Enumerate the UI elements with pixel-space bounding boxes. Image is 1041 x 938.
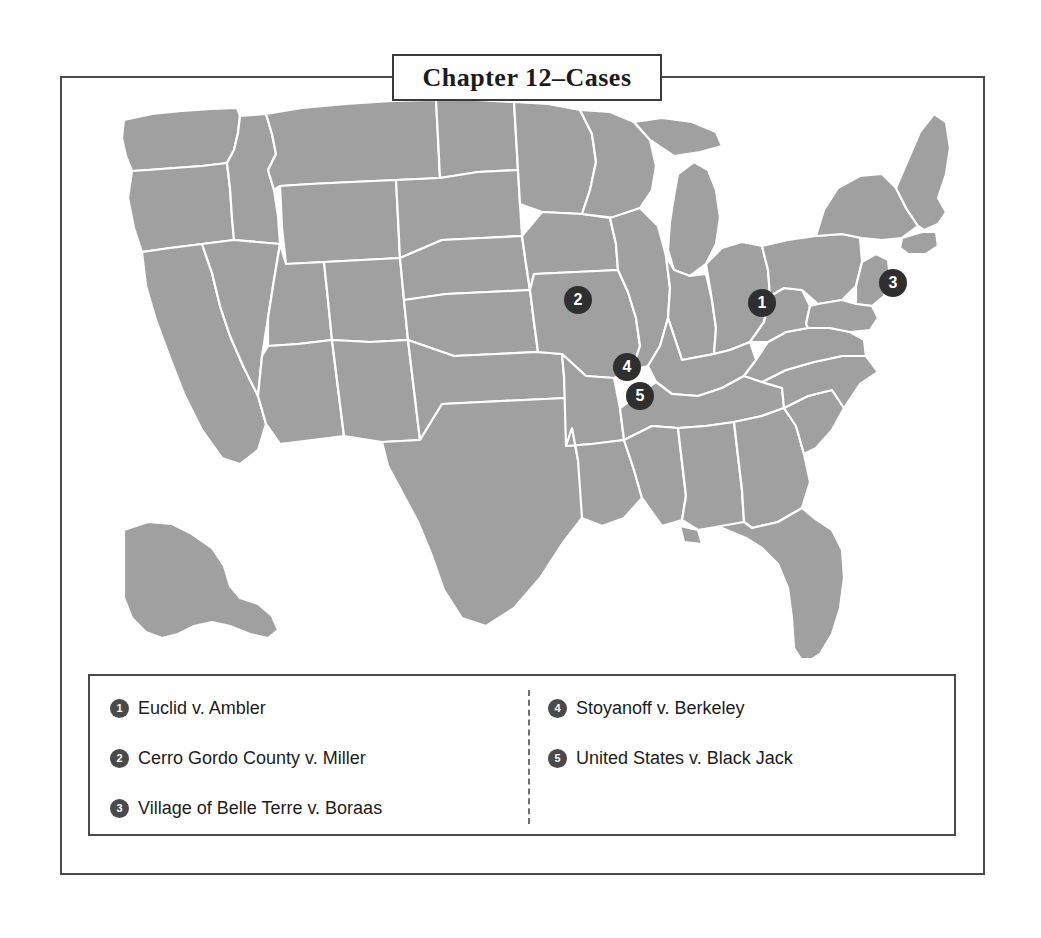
state-arizona: [258, 340, 344, 444]
legend-column-left: 1 Euclid v. Ambler 2 Cerro Gordo County …: [110, 692, 510, 842]
map-marker-5[interactable]: 5: [626, 382, 654, 410]
legend-item-1[interactable]: 1 Euclid v. Ambler: [110, 692, 510, 724]
legend-badge-4-icon: 4: [548, 699, 567, 718]
us-map: [62, 78, 983, 658]
state-wyoming: [280, 180, 400, 264]
state-montana: [266, 100, 440, 190]
legend-badge-1-icon: 1: [110, 699, 129, 718]
us-map-svg: [62, 78, 983, 658]
legend-label-4: Stoyanoff v. Berkeley: [576, 698, 744, 719]
state-north-dakota: [436, 100, 518, 178]
legend-badge-5-icon: 5: [548, 749, 567, 768]
state-alabama: [678, 422, 744, 530]
state-alaska: [124, 522, 278, 638]
state-oregon: [128, 163, 234, 252]
state-florida: [680, 508, 844, 658]
map-marker-4-label: 4: [623, 358, 632, 376]
map-marker-3-label: 3: [889, 274, 898, 292]
legend-item-5[interactable]: 5 United States v. Black Jack: [548, 742, 948, 774]
state-washington: [122, 108, 240, 171]
state-colorado: [324, 258, 408, 342]
legend-item-2[interactable]: 2 Cerro Gordo County v. Miller: [110, 742, 510, 774]
map-marker-1[interactable]: 1: [748, 289, 776, 317]
legend-label-1: Euclid v. Ambler: [138, 698, 266, 719]
state-new-mexico: [332, 340, 420, 442]
legend-badge-2-icon: 2: [110, 749, 129, 768]
state-maryland-delaware: [806, 300, 878, 332]
legend-badge-3-icon: 3: [110, 799, 129, 818]
legend-column-right: 4 Stoyanoff v. Berkeley 5 United States …: [548, 692, 948, 792]
map-marker-1-label: 1: [758, 294, 767, 312]
map-marker-2-label: 2: [574, 291, 583, 309]
legend-divider: [528, 690, 530, 824]
legend-label-2: Cerro Gordo County v. Miller: [138, 748, 366, 769]
legend-label-5: United States v. Black Jack: [576, 748, 793, 769]
legend: 1 Euclid v. Ambler 2 Cerro Gordo County …: [88, 674, 956, 836]
legend-item-4[interactable]: 4 Stoyanoff v. Berkeley: [548, 692, 948, 724]
map-marker-3[interactable]: 3: [879, 269, 907, 297]
page-title: Chapter 12–Cases: [422, 63, 631, 93]
chapter-title-box: Chapter 12–Cases: [392, 54, 662, 101]
map-marker-2[interactable]: 2: [564, 286, 592, 314]
legend-item-3[interactable]: 3 Village of Belle Terre v. Boraas: [110, 792, 510, 824]
map-marker-4[interactable]: 4: [613, 353, 641, 381]
map-marker-5-label: 5: [636, 387, 645, 405]
legend-label-3: Village of Belle Terre v. Boraas: [138, 798, 382, 819]
